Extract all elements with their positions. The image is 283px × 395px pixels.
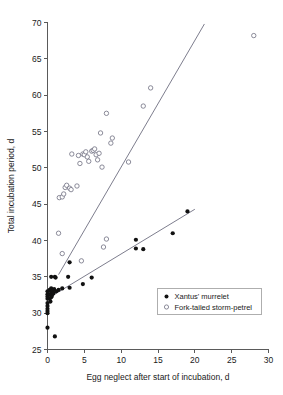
data-point-series-0 xyxy=(134,238,138,242)
x-tick-label: 30 xyxy=(264,355,274,365)
data-point-series-1 xyxy=(62,192,66,196)
data-point-series-0 xyxy=(48,299,52,303)
data-point-series-1 xyxy=(69,187,73,191)
data-point-series-1 xyxy=(87,159,91,163)
data-point-series-0 xyxy=(68,260,72,264)
data-point-series-0 xyxy=(49,275,53,279)
y-tick-label: 55 xyxy=(32,127,42,137)
data-point-series-1 xyxy=(126,160,130,164)
data-point-series-0 xyxy=(54,275,58,279)
data-point-series-1 xyxy=(70,152,74,156)
y-axis-title: Total incubation period, d xyxy=(6,138,16,233)
x-tick-label: 10 xyxy=(116,355,126,365)
y-tick-label: 25 xyxy=(32,345,42,355)
data-point-series-1 xyxy=(95,158,99,162)
regression-lines xyxy=(48,24,205,299)
data-point-series-1 xyxy=(104,237,108,241)
data-point-series-0 xyxy=(134,246,138,250)
data-point-series-1 xyxy=(148,86,152,90)
data-point-series-1 xyxy=(100,165,104,169)
legend-marker-1 xyxy=(164,305,168,309)
y-tick-label: 45 xyxy=(32,199,42,209)
y-tick-label: 30 xyxy=(32,308,42,318)
y-tick-label: 40 xyxy=(32,236,42,246)
legend-label-1[interactable]: Fork-tailed storm-petrel xyxy=(175,303,253,312)
regression-line-series-0 xyxy=(48,209,195,298)
data-point-series-0 xyxy=(66,275,70,279)
data-point-series-1 xyxy=(56,231,60,235)
data-point-series-0 xyxy=(60,286,64,290)
regression-line-series-1 xyxy=(59,24,205,275)
x-axis-title: Egg neglect after start of incubation, d xyxy=(86,372,229,382)
legend-label-0[interactable]: Xantus' murrelet xyxy=(175,292,230,301)
x-tick-label: 0 xyxy=(45,355,50,365)
data-point-series-1 xyxy=(104,111,108,115)
y-tick-label: 60 xyxy=(32,90,42,100)
data-point-series-1 xyxy=(97,151,101,155)
data-point-series-1 xyxy=(85,155,89,159)
x-tick-label: 5 xyxy=(82,355,87,365)
data-point-series-0 xyxy=(141,247,145,251)
data-point-series-1 xyxy=(75,184,79,188)
data-point-series-0 xyxy=(45,326,49,330)
data-point-series-1 xyxy=(60,251,64,255)
x-tick-label: 20 xyxy=(190,355,200,365)
data-point-series-0 xyxy=(53,334,57,338)
data-point-series-1 xyxy=(101,245,105,249)
data-point-series-1 xyxy=(110,136,114,140)
data-point-series-1 xyxy=(98,131,102,135)
data-point-series-1 xyxy=(92,147,96,151)
data-point-series-0 xyxy=(185,209,189,213)
data-point-series-0 xyxy=(68,286,72,290)
data-point-series-1 xyxy=(76,153,80,157)
y-tick-label: 70 xyxy=(32,18,42,28)
data-point-series-0 xyxy=(81,282,85,286)
legend[interactable]: Xantus' murreletFork-tailed storm-petrel xyxy=(158,289,262,315)
data-point-series-1 xyxy=(252,33,256,37)
data-point-series-0 xyxy=(171,231,175,235)
y-tick-label: 35 xyxy=(32,272,42,282)
data-point-series-1 xyxy=(141,104,145,108)
y-tick-label: 65 xyxy=(32,54,42,64)
data-point-series-1 xyxy=(109,141,113,145)
legend-marker-0 xyxy=(165,295,169,299)
x-tick-label: 25 xyxy=(227,355,237,365)
data-point-series-1 xyxy=(78,161,82,165)
data-point-series-0 xyxy=(90,275,94,279)
data-point-series-1 xyxy=(84,150,88,154)
x-tick-label: 15 xyxy=(153,355,163,365)
scatter-plot-figure: 25303540455055606570051015202530 Egg neg… xyxy=(0,0,283,395)
y-tick-label: 50 xyxy=(32,163,42,173)
chart-canvas: 25303540455055606570051015202530 Egg neg… xyxy=(0,0,283,395)
data-point-series-1 xyxy=(79,259,83,263)
data-point-series-0 xyxy=(56,288,60,292)
